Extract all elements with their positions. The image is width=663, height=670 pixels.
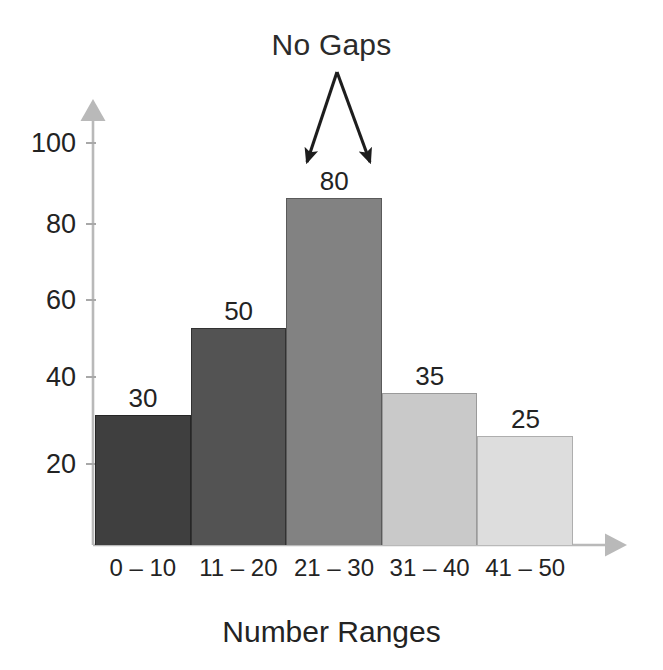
y-tick-label: 40: [16, 362, 76, 392]
bar-value-label: 35: [382, 361, 478, 391]
bar-value-label: 80: [286, 166, 382, 196]
y-axis-arrow-icon: [81, 99, 106, 121]
x-tick-label: 21 – 30: [286, 552, 382, 584]
plot-area: 30 50 80 35 25: [95, 120, 567, 545]
bar-31-40[interactable]: [382, 393, 478, 545]
bar-value-label: 30: [95, 383, 191, 413]
bar-0-10[interactable]: [95, 415, 191, 545]
histogram-chart: No Gaps 20 40 60 80: [0, 0, 663, 670]
x-tick-label: 31 – 40: [382, 552, 478, 584]
x-axis-tick-labels: 0 – 10 11 – 20 21 – 30 31 – 40 41 – 50: [95, 552, 567, 586]
x-tick-label: 11 – 20: [191, 552, 287, 584]
bar-11-20[interactable]: [191, 328, 287, 545]
bar-value-label: 50: [191, 296, 287, 326]
y-tick-label: 80: [16, 209, 76, 239]
x-tick-label: 41 – 50: [477, 552, 573, 584]
bar-41-50[interactable]: [477, 436, 573, 545]
bar-value-label: 25: [477, 404, 573, 434]
y-tick-label: 60: [16, 285, 76, 315]
y-axis-tick-labels: 20 40 60 80 100: [14, 0, 76, 670]
x-tick-label: 0 – 10: [95, 552, 191, 584]
x-axis-arrow-icon: [605, 534, 627, 557]
x-axis-title: Number Ranges: [0, 612, 663, 652]
bar-21-30[interactable]: [286, 198, 382, 545]
y-tick-label: 20: [16, 449, 76, 479]
y-tick-label: 100: [16, 128, 76, 158]
